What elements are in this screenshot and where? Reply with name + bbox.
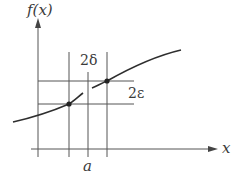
x-axis-label: x <box>222 139 231 157</box>
y-axis-label: f(x) <box>26 1 53 19</box>
upper-point-dot <box>104 78 109 83</box>
function-curve-left <box>13 93 83 122</box>
diagram-svg: f(x) x a 2δ 2ε <box>0 0 231 181</box>
y-axis-arrow-icon <box>35 18 41 28</box>
lower-point-dot <box>66 101 71 106</box>
epsilon-label: 2ε <box>128 85 144 101</box>
x-axis-arrow-icon <box>208 146 218 152</box>
delta-label: 2δ <box>80 52 97 68</box>
epsilon-delta-diagram: f(x) x a 2δ 2ε <box>0 0 231 181</box>
a-label: a <box>83 157 92 175</box>
